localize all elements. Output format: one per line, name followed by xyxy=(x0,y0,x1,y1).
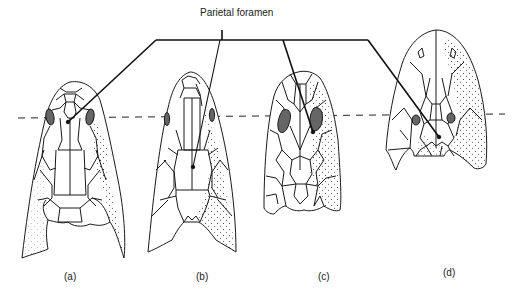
skull-c xyxy=(264,71,341,214)
panel-label-c: (c) xyxy=(318,271,330,282)
skull-b xyxy=(148,72,236,252)
parietal-foramen-pointer xyxy=(68,30,439,167)
panel-label-d: (d) xyxy=(443,267,455,278)
skull-d xyxy=(386,30,487,170)
panel-label-a: (a) xyxy=(64,271,76,282)
panel-label-b: (b) xyxy=(196,271,208,282)
skull-a xyxy=(22,82,125,258)
leader-line-a xyxy=(68,40,156,122)
skull-comparison-diagram xyxy=(0,0,513,296)
